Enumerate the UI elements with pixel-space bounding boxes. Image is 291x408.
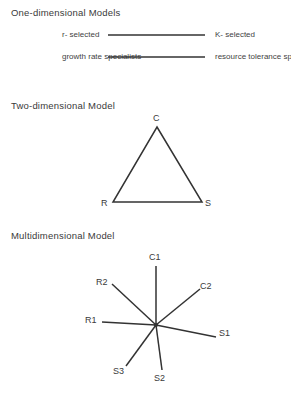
figure-caption-clipped (8, 400, 284, 408)
section-title-two-dimensional: Two-dimensional Model (11, 100, 115, 111)
figure-canvas: One-dimensional Models r- selected K- se… (0, 0, 291, 408)
spoke-label-r2: R2 (96, 277, 108, 287)
star-spokes (102, 266, 216, 370)
spoke-line-s1 (156, 325, 216, 337)
spoke-label-s3: S3 (113, 366, 124, 376)
vertex-label-s: S (205, 198, 211, 208)
spoke-line-c2 (156, 289, 200, 325)
spoke-label-r1: R1 (85, 315, 97, 325)
star-center-node (154, 323, 158, 327)
spoke-label-s1: S1 (219, 328, 230, 338)
spoke-line-s2 (156, 325, 162, 370)
spoke-label-s2: S2 (154, 373, 165, 383)
spoke-line-r1 (102, 322, 156, 325)
triangle-csr (113, 127, 202, 202)
spoke-label-c1: C1 (149, 252, 161, 262)
spoke-line-r2 (112, 284, 156, 325)
spoke-line-s3 (126, 325, 156, 366)
vertex-label-c: C (153, 113, 160, 123)
diagram-vector-layer (0, 0, 291, 408)
spoke-label-c2: C2 (200, 281, 212, 291)
vertex-label-r: R (101, 198, 108, 208)
section-title-multidimensional: Multidimensional Model (11, 230, 115, 241)
